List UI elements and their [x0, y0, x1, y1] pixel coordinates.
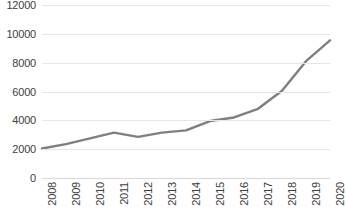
x-tick-label: 2012 — [143, 182, 154, 206]
y-tick-label: 8000 — [12, 57, 36, 68]
x-tick-label: 2011 — [119, 182, 130, 205]
y-tick-label: 0 — [30, 173, 36, 184]
gridline — [42, 149, 330, 150]
gridline — [42, 92, 330, 93]
x-tick-label: 2020 — [335, 182, 346, 206]
plot-area — [42, 5, 330, 178]
y-tick-label: 6000 — [12, 86, 36, 97]
x-tick-label: 2019 — [311, 182, 322, 206]
x-tick-label: 2016 — [239, 182, 250, 206]
y-axis: 020004000600080001000012000 — [0, 0, 40, 216]
x-tick-label: 2017 — [263, 182, 274, 206]
gridline — [42, 5, 330, 6]
x-tick-label: 2014 — [191, 182, 202, 206]
gridline — [42, 34, 330, 35]
x-tick-label: 2015 — [215, 182, 226, 206]
gridline — [42, 63, 330, 64]
gridline — [42, 120, 330, 121]
x-tick-label: 2009 — [71, 182, 82, 206]
y-tick-label: 2000 — [12, 144, 36, 155]
x-axis: 2008200920102011201220132014201520162017… — [42, 178, 330, 216]
y-tick-label: 10000 — [6, 28, 36, 39]
x-tick-label: 2013 — [167, 182, 178, 206]
x-tick-label: 2008 — [47, 182, 58, 206]
x-tick-label: 2010 — [95, 182, 106, 206]
series-line — [42, 40, 330, 148]
x-tick-label: 2018 — [287, 182, 298, 206]
y-tick-label: 4000 — [12, 115, 36, 126]
y-tick-label: 12000 — [6, 0, 36, 11]
